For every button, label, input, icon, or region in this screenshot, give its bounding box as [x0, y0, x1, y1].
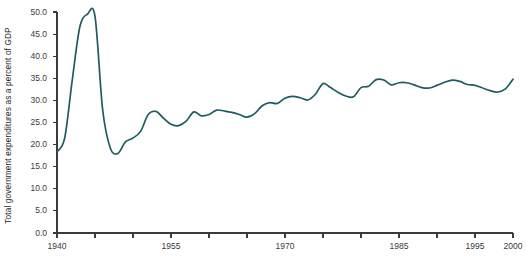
data-series-line: [57, 8, 513, 154]
chart-container: Total government expenditures as a perce…: [0, 0, 527, 275]
x-axis-tick-marks: [57, 233, 513, 238]
y-axis-tick-marks: [53, 12, 57, 233]
plot-area: [0, 0, 527, 275]
axes: [57, 12, 513, 233]
